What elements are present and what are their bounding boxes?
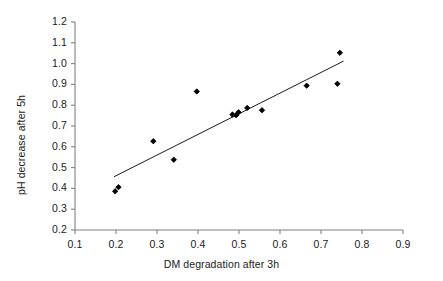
y-tick-label: 0.8 <box>33 98 67 110</box>
y-tick-label: 1.2 <box>33 15 67 27</box>
trend-line <box>114 61 344 177</box>
x-tick-label: 0.9 <box>383 238 423 250</box>
x-tick-label: 0.2 <box>96 238 136 250</box>
data-point <box>151 138 156 143</box>
data-point <box>171 157 176 162</box>
data-point <box>337 50 342 55</box>
y-tick-label: 1.1 <box>33 36 67 48</box>
y-tick-label: 0.9 <box>33 77 67 89</box>
x-tick-label: 0.1 <box>55 238 95 250</box>
y-tick-label: 0.2 <box>33 223 67 235</box>
data-point <box>245 105 250 110</box>
data-points <box>112 50 342 194</box>
data-point <box>194 89 199 94</box>
y-tick-label: 0.4 <box>33 181 67 193</box>
y-tick-label: 0.6 <box>33 140 67 152</box>
data-point <box>304 83 309 88</box>
x-tick-label: 0.5 <box>219 238 259 250</box>
scatter-chart: 0.20.30.40.50.60.70.80.91.01.11.2 0.10.2… <box>0 0 443 281</box>
y-tick-label: 0.5 <box>33 161 67 173</box>
data-point <box>335 81 340 86</box>
x-tick-label: 0.7 <box>301 238 341 250</box>
data-point <box>259 107 264 112</box>
y-tick-label: 1.0 <box>33 57 67 69</box>
y-tick-label: 0.7 <box>33 119 67 131</box>
x-axis-title: DM degradation after 3h <box>0 258 443 270</box>
data-point <box>116 184 121 189</box>
x-tick-label: 0.8 <box>342 238 382 250</box>
x-tick-label: 0.4 <box>178 238 218 250</box>
y-axis-title: pH decrease after 5h <box>15 95 27 195</box>
x-tick-label: 0.3 <box>137 238 177 250</box>
x-tick-label: 0.6 <box>260 238 300 250</box>
axes <box>71 22 403 234</box>
data-point <box>112 189 117 194</box>
y-tick-label: 0.3 <box>33 202 67 214</box>
